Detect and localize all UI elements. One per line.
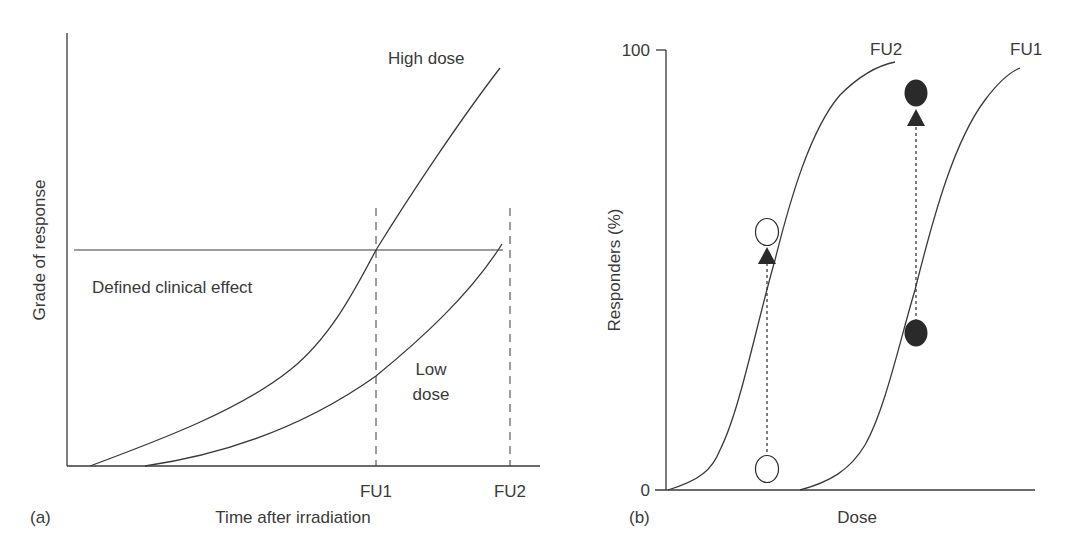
fu1-curve-label: FU1 — [1010, 40, 1042, 59]
panel-a-y-axis-title: Grade of response — [30, 180, 49, 321]
panel-a: High dose Defined clinical effect Low do… — [30, 33, 540, 527]
panel-a-label: (a) — [30, 508, 51, 527]
open-circle-marker-high — [756, 219, 779, 246]
filled-circle-marker-high — [905, 80, 928, 107]
high-dose-curve — [90, 68, 500, 466]
arrowhead-triangle-icon — [907, 109, 925, 126]
high-dose-label: High dose — [388, 49, 465, 68]
defined-clinical-effect-label: Defined clinical effect — [92, 278, 253, 297]
fu2-tick-label: FU2 — [494, 482, 526, 501]
arrowhead-triangle-icon — [758, 247, 776, 264]
panel-b-y-axis-title: Responders (%) — [605, 209, 624, 332]
figure-canvas: High dose Defined clinical effect Low do… — [0, 0, 1087, 552]
panel-a-x-axis-title: Time after irradiation — [215, 508, 370, 527]
panel-b: 100 0 FU2 FU1 (b) Dose Responders (%) — [605, 40, 1042, 527]
panel-b-label: (b) — [629, 508, 650, 527]
panel-b-x-axis-title: Dose — [837, 508, 877, 527]
fu1-tick-label: FU1 — [360, 482, 392, 501]
y-tick-0-label: 0 — [641, 481, 650, 500]
low-dose-label-line2: dose — [413, 385, 450, 404]
filled-circle-marker-low — [905, 320, 928, 347]
low-dose-label-line1: Low — [415, 360, 447, 379]
y-tick-100-label: 100 — [622, 41, 650, 60]
fu2-curve — [668, 62, 895, 490]
open-circle-marker-low — [756, 456, 779, 483]
fu1-curve — [800, 68, 1020, 490]
fu2-curve-label: FU2 — [870, 40, 902, 59]
